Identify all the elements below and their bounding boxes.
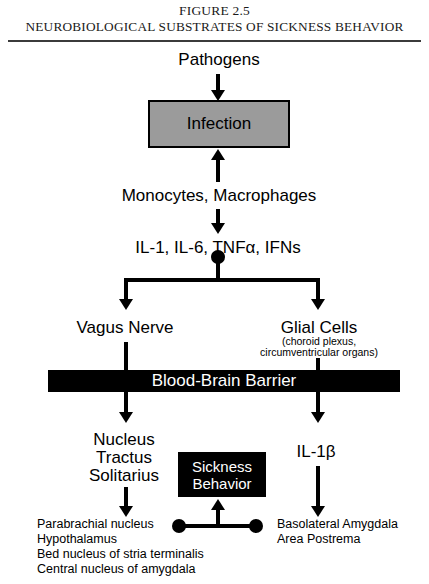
node-infection-label: Infection — [187, 114, 251, 134]
connector-bbb-to-nts — [124, 392, 128, 414]
arrowhead-targets-to-sickness — [211, 499, 225, 510]
node-glial-cells-sublabel-line2: circumventricular organs) — [248, 347, 390, 359]
node-sickness-behavior-line1: Sickness — [192, 458, 252, 475]
node-infection-box: Infection — [148, 100, 290, 148]
title-divider — [8, 40, 421, 42]
figure-title: NEUROBIOLOGICAL SUBSTRATES OF SICKNESS B… — [0, 19, 429, 35]
connector-split-to-vagus — [124, 278, 128, 301]
junction-dot-left-targets — [172, 519, 186, 533]
right-target-line2: Area Postrema — [277, 532, 360, 547]
arrowhead-monocytes-to-infection — [211, 149, 225, 160]
left-target-line3: Bed nucleus of stria terminalis — [37, 547, 204, 562]
arrowhead-monocytes-to-cytokines — [211, 223, 225, 234]
arrowhead-split-to-vagus — [119, 299, 133, 310]
node-monocytes-macrophages: Monocytes, Macrophages — [84, 186, 354, 205]
figure-container: FIGURE 2.5 NEUROBIOLOGICAL SUBSTRATES OF… — [0, 0, 429, 584]
arrowhead-bbb-to-nts — [119, 412, 133, 423]
arrowhead-split-to-glial — [311, 299, 325, 310]
node-sickness-behavior-line2: Behavior — [192, 475, 251, 492]
arrowhead-il1beta-to-right-targets — [311, 506, 325, 517]
connector-split-to-glial — [316, 278, 320, 301]
connector-vagus-to-bbb — [124, 342, 128, 372]
arrowhead-bbb-to-il1beta — [311, 412, 325, 423]
node-il1beta: IL-1β — [256, 442, 376, 461]
left-target-line2: Hypothalamus — [37, 532, 117, 547]
node-blood-brain-barrier-label: Blood-Brain Barrier — [152, 371, 297, 391]
connector-monocytes-to-infection — [216, 160, 220, 182]
node-nts-line3: Solitarius — [64, 466, 184, 485]
figure-number: FIGURE 2.5 — [0, 3, 429, 19]
right-target-line1: Basolateral Amygdala — [277, 517, 398, 532]
node-vagus-nerve: Vagus Nerve — [54, 318, 196, 337]
node-sickness-behavior-box: Sickness Behavior — [178, 452, 266, 497]
node-blood-brain-barrier: Blood-Brain Barrier — [48, 370, 400, 392]
left-target-line1: Parabrachial nucleus — [37, 517, 154, 532]
connector-split-horizontal — [124, 278, 320, 282]
node-pathogens: Pathogens — [144, 50, 294, 69]
arrowhead-nts-to-left-targets — [119, 506, 133, 517]
junction-dot-right-targets — [249, 519, 263, 533]
connector-bbb-to-il1beta — [316, 392, 320, 414]
left-target-line4: Central nucleus of amygdala — [37, 562, 195, 577]
connector-il1beta-to-right-targets — [316, 466, 320, 509]
node-nts-line1: Nucleus — [64, 430, 184, 449]
connector-targets-to-sickness — [216, 508, 220, 526]
node-nts-line2: Tractus — [64, 448, 184, 467]
